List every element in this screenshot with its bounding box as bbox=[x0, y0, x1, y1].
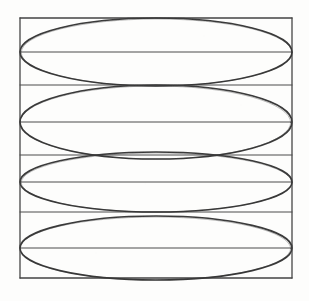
hand-drawn-ellipse-diagram bbox=[0, 0, 309, 301]
figure-canvas bbox=[0, 0, 309, 301]
